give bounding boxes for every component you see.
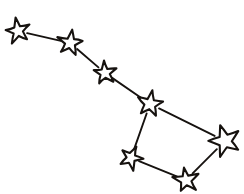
constellation-drawing	[0, 0, 244, 194]
star-handle-tip-icon	[6, 18, 30, 44]
star-bowl-bot-left-icon	[121, 147, 144, 171]
constellation-stars	[6, 18, 239, 191]
star-handle-base-icon	[94, 61, 117, 84]
edge-bowl-top-left-to-right	[159, 108, 215, 135]
edge-handle-tip-to-mid	[27, 33, 61, 41]
constellation-edges	[27, 33, 217, 176]
star-bowl-top-left-icon	[138, 90, 163, 115]
edge-bowl-top-left-down	[134, 114, 147, 150]
constellation-canvas	[0, 0, 244, 194]
edge-bowl-bot-left-to-right	[139, 161, 177, 176]
edge-handle-base-to-bowl	[112, 78, 142, 98]
edge-handle-mid-to-base	[77, 49, 98, 67]
edge-bowl-bot-right-to-top	[193, 149, 217, 173]
